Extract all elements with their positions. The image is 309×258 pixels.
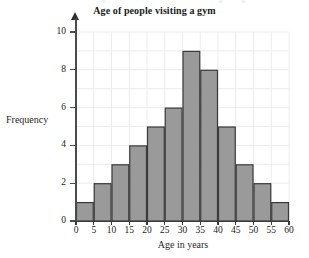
bar xyxy=(219,127,236,221)
bar xyxy=(148,127,165,221)
y-axis-tick xyxy=(70,107,76,108)
y-axis-tick xyxy=(70,183,76,184)
y-axis-tick-label: 2 xyxy=(40,177,66,187)
bar xyxy=(77,203,94,221)
bar xyxy=(165,108,182,221)
plot-area xyxy=(76,32,289,221)
y-axis-title: Frequency xyxy=(6,114,72,125)
top-edge-artifact xyxy=(241,0,246,3)
bar xyxy=(272,203,289,221)
y-axis-tick xyxy=(70,69,76,70)
y-axis-tick-label: 8 xyxy=(40,64,66,74)
bar xyxy=(236,165,253,221)
bar xyxy=(183,51,200,221)
bar xyxy=(130,146,147,221)
y-axis-tick-label: 4 xyxy=(40,139,66,149)
y-axis-tick-label: 6 xyxy=(40,102,66,112)
bar xyxy=(254,184,271,221)
top-edge-artifact xyxy=(101,0,106,3)
bar-series xyxy=(76,32,289,221)
bar xyxy=(94,184,111,221)
y-axis-line xyxy=(75,18,77,222)
histogram-chart: Age of people visiting a gym 02468100510… xyxy=(0,0,309,258)
y-axis-tick-label: 0 xyxy=(40,215,66,225)
y-axis-tick xyxy=(70,31,76,32)
bar xyxy=(201,70,218,221)
x-axis-title: Age in years xyxy=(76,239,290,250)
y-axis-tick xyxy=(70,145,76,146)
top-edge-artifact xyxy=(218,0,223,3)
y-axis-tick-label: 10 xyxy=(40,26,66,36)
bar xyxy=(112,165,129,221)
chart-title: Age of people visiting a gym xyxy=(0,5,309,16)
x-axis-tick-label: 60 xyxy=(278,225,300,235)
